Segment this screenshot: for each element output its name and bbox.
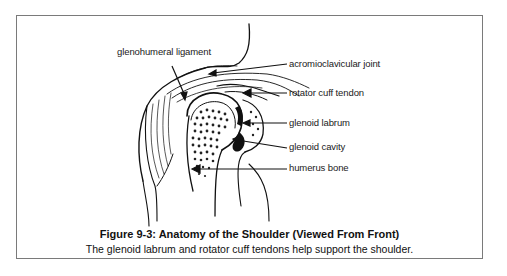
label-acromioclavicular-joint: acromioclavicular joint: [289, 58, 380, 69]
label-humerus-bone: humerus bone: [289, 162, 349, 173]
label-rotator-cuff-tendon: rotator cuff tendon: [289, 87, 364, 98]
label-glenohumeral-ligament: glenohumeral ligament: [117, 46, 211, 57]
figure-title: Figure 9-3: Anatomy of the Shoulder (Vie…: [17, 228, 482, 240]
figure-frame: glenohumeral ligament acromioclavicular …: [16, 15, 483, 259]
label-glenoid-cavity: glenoid cavity: [289, 141, 345, 152]
figure-subtitle: The glenoid labrum and rotator cuff tend…: [17, 243, 482, 255]
bone-texture: [192, 109, 260, 177]
label-glenoid-labrum: glenoid labrum: [289, 117, 350, 128]
shoulder-anatomy-illustration: [17, 16, 484, 260]
